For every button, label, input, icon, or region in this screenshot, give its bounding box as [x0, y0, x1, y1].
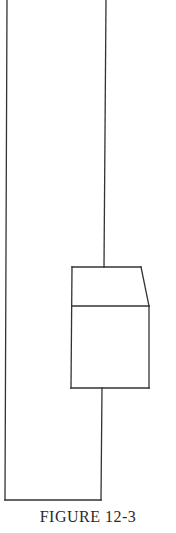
- left-vertical-line: [5, 0, 7, 500]
- top-vertical-line: [104, 0, 106, 267]
- box-left-edge: [71, 267, 72, 388]
- bottom-connector-line: [101, 388, 102, 500]
- figure-diagram: [0, 0, 176, 533]
- box-slanted-edge: [141, 267, 149, 306]
- figure-caption: FIGURE 12-3: [0, 508, 176, 526]
